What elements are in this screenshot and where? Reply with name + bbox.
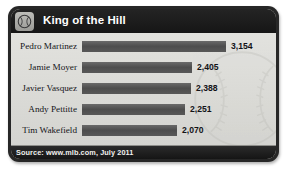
bar-track: 3,154: [82, 41, 276, 52]
chart-header: King of the Hill: [11, 9, 276, 33]
baseball-icon: [15, 12, 34, 31]
bar-fill: [82, 41, 226, 52]
bar-track: 2,405: [82, 62, 276, 73]
chart-card-inner: King of the Hill Pedro Martine: [11, 9, 276, 159]
page-title: King of the Hill: [43, 15, 126, 27]
bar-fill: [82, 83, 191, 94]
bar-value: 3,154: [231, 42, 253, 51]
bar-list: Pedro Martinez 3,154 Jamie Moyer 2,405 J…: [11, 33, 276, 141]
bar-label: Javier Vasquez: [11, 84, 82, 93]
source-note: Source: www.mlb.com, July 2011: [16, 149, 134, 156]
bar-value: 2,251: [190, 105, 212, 114]
bar-track: 2,070: [82, 125, 276, 136]
bar-value: 2,388: [196, 84, 218, 93]
bar-fill: [82, 125, 177, 136]
bar-label: Andy Pettitte: [11, 105, 82, 114]
bar-label: Tim Wakefield: [11, 126, 82, 135]
bar-fill: [82, 62, 192, 73]
bar-row: Pedro Martinez 3,154: [11, 36, 276, 57]
bar-row: Andy Pettitte 2,251: [11, 99, 276, 120]
bar-row: Tim Wakefield 2,070: [11, 120, 276, 141]
bar-track: 2,251: [82, 104, 276, 115]
chart-plot-area: Pedro Martinez 3,154 Jamie Moyer 2,405 J…: [11, 33, 276, 145]
bar-fill: [82, 104, 185, 115]
bar-row: Javier Vasquez 2,388: [11, 78, 276, 99]
chart-card: King of the Hill Pedro Martine: [8, 6, 279, 162]
bar-track: 2,388: [82, 83, 276, 94]
bar-value: 2,070: [182, 126, 204, 135]
bar-label: Pedro Martinez: [11, 42, 82, 51]
bar-value: 2,405: [197, 63, 219, 72]
bar-label: Jamie Moyer: [11, 63, 82, 72]
chart-footer: Source: www.mlb.com, July 2011: [11, 145, 276, 159]
bar-row: Jamie Moyer 2,405: [11, 57, 276, 78]
